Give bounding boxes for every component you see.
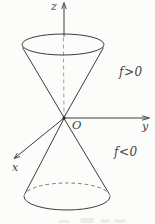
- z-axis-hidden-dashed-line: [63, 38, 64, 117]
- faint-caption-remnant: [58, 220, 70, 223]
- figure-canvas: z y x O f>0 f<0: [0, 0, 155, 224]
- upper-cone-right-side: [64, 48, 104, 118]
- lower-cone-base-front-arc: [24, 197, 110, 211]
- lower-cone-left-side: [25, 119, 64, 194]
- y-axis-label: y: [142, 121, 148, 132]
- upper-cone-rim-ellipse: [22, 34, 104, 55]
- double-cone-diagram: [0, 0, 155, 224]
- x-axis-label: x: [12, 162, 18, 173]
- upper-cone-left-side: [23, 48, 65, 118]
- origin-label: O: [72, 120, 81, 132]
- faint-caption-remnant: [114, 219, 126, 223]
- z-axis-label: z: [51, 1, 57, 12]
- lower-cone-right-side: [64, 119, 109, 194]
- x-axis-line: [15, 118, 64, 158]
- lower-cone-base-back-dashed-arc: [24, 183, 110, 197]
- upper-region-label: f>0: [119, 66, 143, 78]
- lower-region-label: f<0: [114, 146, 138, 158]
- origin-vertex-dot: [62, 116, 65, 119]
- faint-caption-remnant: [80, 218, 94, 223]
- faint-caption-remnant: [100, 219, 110, 223]
